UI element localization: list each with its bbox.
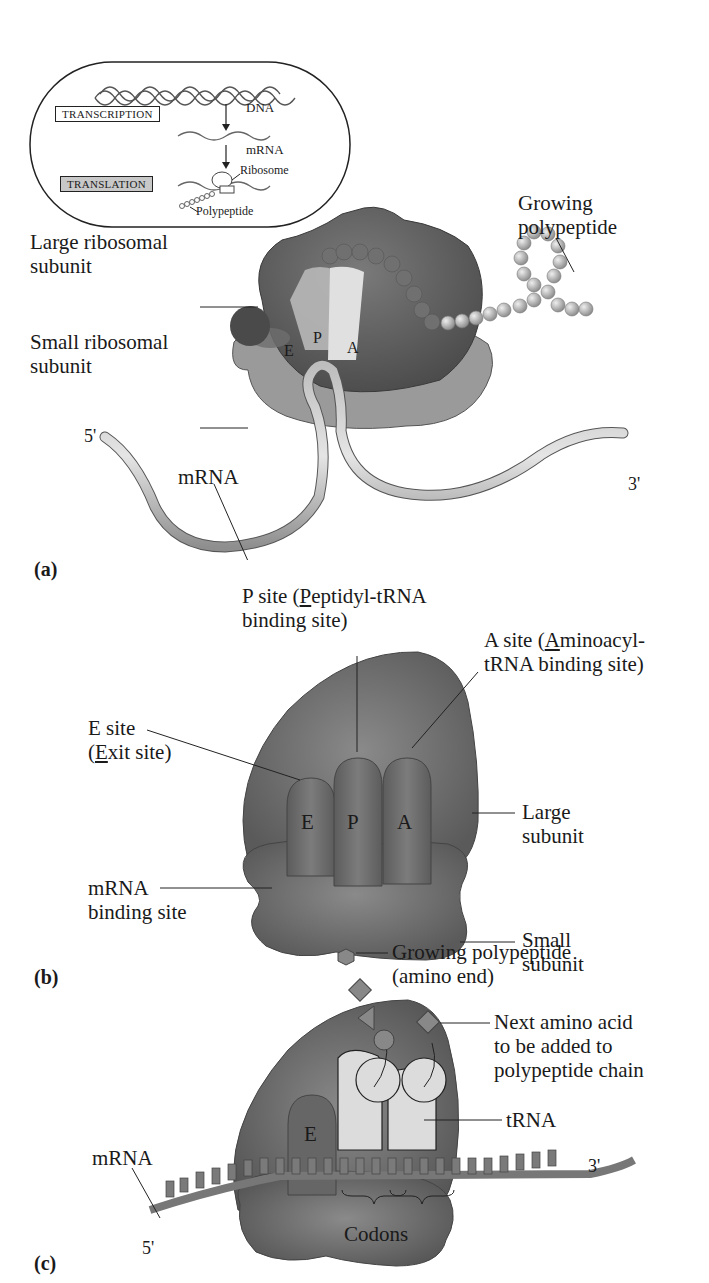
mrna-label-c: mRNA	[92, 1146, 153, 1170]
circle-amino-acid-icon	[374, 1030, 394, 1050]
codons-label: Codons	[344, 1222, 408, 1246]
panel-c-letter: (c)	[34, 1252, 56, 1275]
trna-molecules	[338, 1050, 446, 1150]
growing-polypeptide-amino-end-label: Growing polypeptide(amino end)	[392, 940, 571, 988]
site-e-c: E	[304, 1122, 317, 1146]
diamond-amino-acid-icon	[349, 979, 372, 1002]
five-prime-label-c: 5'	[142, 1236, 154, 1260]
panel-c-drawing	[0, 0, 709, 1283]
trna-label: tRNA	[506, 1108, 556, 1132]
next-amino-acid-label: Next amino acidto be added topolypeptide…	[494, 1010, 644, 1082]
three-prime-label-c: 3'	[588, 1154, 600, 1178]
hexagon-amino-acid-icon	[338, 949, 354, 965]
